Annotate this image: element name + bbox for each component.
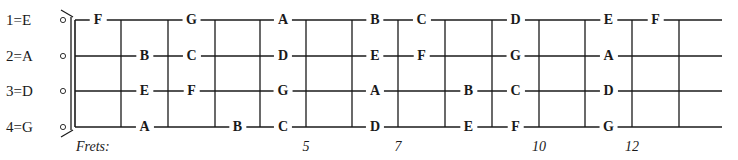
- note-label: E: [460, 119, 477, 135]
- note-label: D: [274, 48, 292, 64]
- note-label: F: [647, 12, 664, 28]
- note-label: C: [182, 48, 200, 64]
- note-label: G: [182, 12, 201, 28]
- fret-number-5: 5: [303, 139, 310, 155]
- note-label: G: [599, 119, 618, 135]
- note-label: F: [413, 48, 430, 64]
- note-label: A: [366, 83, 384, 99]
- note-label: G: [274, 83, 293, 99]
- nut-diagonal-top: [61, 10, 73, 17]
- note-label: F: [507, 119, 524, 135]
- note-label: E: [366, 48, 383, 64]
- note-label: C: [412, 12, 430, 28]
- note-label: A: [274, 12, 292, 28]
- open-string-circle-icon: [60, 17, 65, 22]
- note-label: C: [506, 83, 524, 99]
- note-label: A: [599, 48, 617, 64]
- open-string-circle-icon: [60, 53, 65, 58]
- open-string-circle-icon: [60, 124, 65, 129]
- note-label: B: [136, 48, 153, 64]
- note-label: E: [136, 83, 153, 99]
- fretboard-diagram: 1=EFGABCDEF2=ABCDEFGA3=DEFGABCD4=GABCDEF…: [0, 0, 738, 160]
- open-string-circle-icon: [60, 88, 65, 93]
- note-label: C: [274, 119, 292, 135]
- nut-diagonal-bottom: [61, 130, 73, 137]
- string-label-1: 1=E: [6, 12, 54, 28]
- fret-number-10: 10: [532, 139, 546, 155]
- note-label: A: [135, 119, 153, 135]
- frets-caption: Frets:: [76, 139, 110, 155]
- string-label-3: 3=D: [6, 83, 54, 99]
- note-label: B: [460, 83, 477, 99]
- fret-number-7: 7: [395, 139, 402, 155]
- note-label: D: [366, 119, 384, 135]
- note-label: D: [599, 83, 617, 99]
- note-label: F: [90, 12, 107, 28]
- note-label: D: [506, 12, 524, 28]
- note-label: G: [506, 48, 525, 64]
- note-label: F: [183, 83, 200, 99]
- string-label-2: 2=A: [6, 48, 54, 64]
- string-label-4: 4=G: [6, 119, 54, 135]
- fret-number-12: 12: [625, 139, 639, 155]
- note-label: E: [600, 12, 617, 28]
- note-label: B: [366, 12, 383, 28]
- note-label: B: [229, 119, 246, 135]
